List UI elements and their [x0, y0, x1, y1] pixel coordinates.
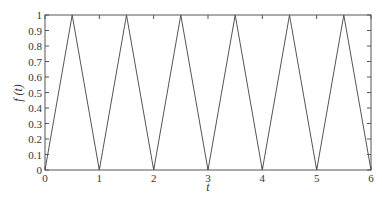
x-tick-label: 4	[260, 172, 266, 184]
y-tick-label: 0.7	[28, 56, 42, 68]
y-tick-label: 0.1	[28, 149, 42, 161]
y-tick-label: 0.9	[28, 25, 42, 37]
y-tick-label: 0.4	[28, 102, 42, 114]
y-tick-label: 0.5	[28, 87, 42, 99]
chart-svg: 0123456 00.10.20.30.40.50.60.70.80.91 t …	[0, 0, 382, 202]
y-axis-label: f (t)	[11, 84, 25, 102]
axes-frame	[45, 15, 371, 170]
x-axis-ticks: 0123456	[42, 15, 374, 184]
chart-container: 0123456 00.10.20.30.40.50.60.70.80.91 t …	[0, 0, 382, 202]
y-tick-label: 0	[37, 164, 43, 176]
y-tick-label: 1	[37, 9, 43, 21]
y-tick-label: 0.6	[28, 71, 42, 83]
x-tick-label: 1	[97, 172, 103, 184]
y-tick-label: 0.2	[28, 133, 42, 145]
x-tick-label: 5	[314, 172, 320, 184]
x-tick-label: 2	[151, 172, 157, 184]
plot-area	[45, 15, 371, 170]
series-line	[45, 15, 371, 170]
y-tick-label: 0.8	[28, 40, 42, 52]
y-tick-label: 0.3	[28, 118, 42, 130]
x-tick-label: 6	[368, 172, 374, 184]
x-tick-label: 0	[42, 172, 48, 184]
